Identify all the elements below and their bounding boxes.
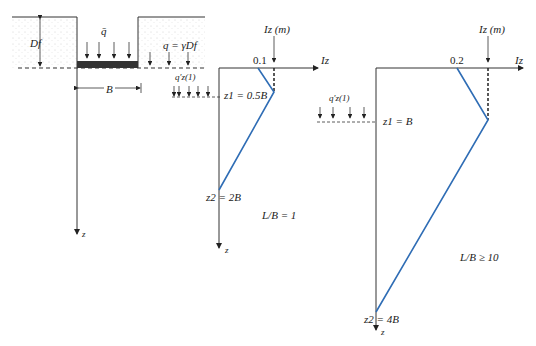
soil-left: [12, 17, 77, 68]
izm-label-2: Iz (m): [479, 24, 505, 35]
surface-value-1: 0.1: [253, 55, 267, 66]
diagram-canvas: [0, 0, 536, 346]
width-label: B: [104, 84, 115, 95]
z1-label-1: z1 = 0.5B: [224, 90, 267, 101]
z-label-1: z: [225, 246, 229, 255]
surcharge-label: q = γDf: [163, 40, 197, 51]
stress-label: q′z(1): [175, 73, 195, 82]
z1-label-2: z1 = B: [383, 116, 412, 127]
z2-label-1: z2 = 2B: [206, 192, 241, 203]
chart-title-2: L/B ≥ 10: [460, 252, 498, 263]
iz-profile-1: [219, 68, 274, 190]
load-label: q̄: [101, 26, 107, 37]
stress-label-2: q′z(1): [329, 94, 349, 103]
stress-arrows: [174, 86, 208, 96]
iz-label-2: Iz: [515, 55, 523, 66]
z-label-2: z: [381, 328, 385, 337]
footing: [77, 61, 138, 68]
chart-title-1: L/B = 1: [262, 210, 296, 221]
iz-profile-2: [376, 68, 488, 312]
iz-label-1: Iz: [321, 55, 329, 66]
foundation-z-label: z: [82, 230, 86, 239]
z2-label-2: z2 = 4B: [364, 314, 399, 325]
izm-label-1: Iz (m): [264, 24, 290, 35]
surface-value-2: 0.2: [450, 55, 464, 66]
chart-strip: [317, 36, 523, 330]
depth-label: Df: [30, 38, 41, 49]
stress-arrows-2: [320, 107, 364, 118]
